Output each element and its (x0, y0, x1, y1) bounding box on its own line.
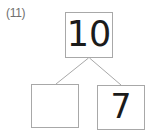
problem-number-label: (11) (6, 6, 25, 20)
number-bond-worksheet: (11) 10 7 (0, 0, 159, 138)
whole-box-value: 10 (67, 17, 112, 52)
part-box-right-value: 7 (111, 90, 132, 123)
connector-line-right (90, 58, 122, 85)
connector-line-left (56, 58, 89, 84)
part-box-right[interactable]: 7 (97, 85, 145, 130)
part-box-left[interactable] (31, 84, 79, 128)
whole-box[interactable]: 10 (65, 12, 113, 58)
